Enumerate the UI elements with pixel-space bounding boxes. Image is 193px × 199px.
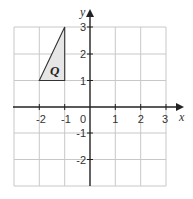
x-tick-label: 1 [112,113,118,125]
y-tick-label: -1 [76,127,86,139]
y-tick-label: 2 [80,48,86,60]
x-tick-label: -2 [36,113,46,125]
x-tick-label: 2 [138,113,144,125]
y-tick-label: 1 [80,75,86,87]
y-axis-label: y [79,5,86,19]
y-tick-label: 3 [80,21,86,33]
shape-label-q: Q [50,63,60,78]
x-tick-label: -1 [61,113,71,125]
axes [13,16,178,186]
x-tick-label: 3 [162,113,168,125]
origin-label: 0 [80,113,86,125]
coordinate-grid-chart: -2 -1 0 1 2 3 3 2 1 -1 -2 x y Q [0,0,193,199]
y-tick-label: -2 [76,154,86,166]
y-axis-arrow-icon [86,9,94,17]
x-axis-label: x [178,110,185,124]
